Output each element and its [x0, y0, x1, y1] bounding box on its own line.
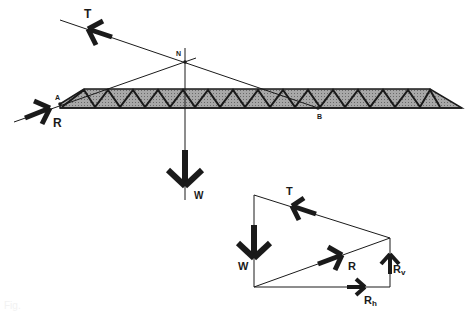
polygon-t-side	[254, 195, 390, 238]
space-diagram: T N A B R W	[14, 7, 462, 201]
label-w: W	[194, 190, 204, 201]
tension-arrow-icon	[88, 21, 112, 45]
force-polygon	[238, 195, 399, 295]
polygon-label-w: W	[238, 260, 249, 272]
polygon-reaction-arrow-icon	[318, 247, 342, 270]
force-diagram: T N A B R W	[0, 0, 472, 312]
label-b: B	[317, 113, 322, 120]
point-b-dot	[316, 106, 320, 110]
figure-caption: Fig.	[4, 300, 21, 311]
polygon-weight-arrow-icon	[238, 225, 270, 258]
reaction-arrow-icon	[25, 101, 50, 124]
point-n-dot	[183, 60, 187, 64]
polygon-label-t: T	[286, 185, 293, 197]
point-a-dot	[58, 102, 62, 106]
label-r: R	[53, 116, 62, 130]
weight-arrow-icon	[168, 150, 202, 186]
polygon-tension-arrow-icon	[292, 198, 316, 220]
label-a: A	[55, 94, 60, 101]
polygon-label-r: R	[348, 260, 356, 272]
polygon-label-rv: Rv	[393, 263, 406, 277]
polygon-rh-arrow-icon	[347, 279, 365, 295]
label-n: N	[176, 50, 181, 57]
polygon-label-rh: Rh	[364, 294, 377, 308]
label-t: T	[84, 7, 92, 21]
